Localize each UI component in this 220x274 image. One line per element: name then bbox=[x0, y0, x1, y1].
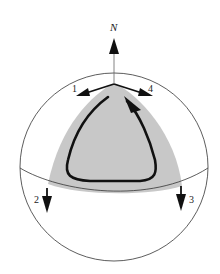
vector-label-4: 4 bbox=[148, 83, 153, 94]
north-arrowhead-icon bbox=[109, 38, 119, 54]
sphere-diagram: N 1 4 2 3 bbox=[0, 0, 220, 274]
vector-label-3: 3 bbox=[189, 194, 194, 205]
vector-label-1: 1 bbox=[72, 83, 77, 94]
vector-label-2: 2 bbox=[34, 194, 39, 205]
pole-label: N bbox=[109, 21, 118, 33]
